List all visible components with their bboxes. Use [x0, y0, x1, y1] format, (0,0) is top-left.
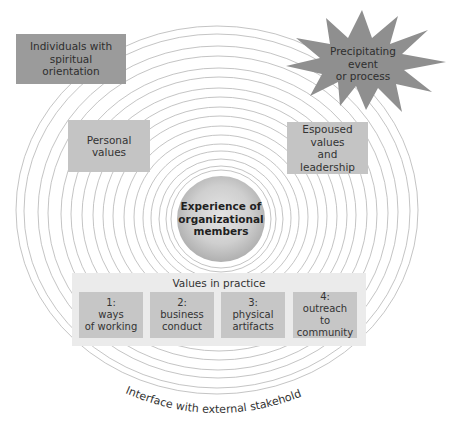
- outer-caption: Interface with external stakeholders: [0, 0, 303, 416]
- outer-caption-arc: Interface with external stakeholders: [0, 0, 460, 437]
- svg-text:Interface with external stakeh: Interface with external stakeholders: [0, 0, 303, 416]
